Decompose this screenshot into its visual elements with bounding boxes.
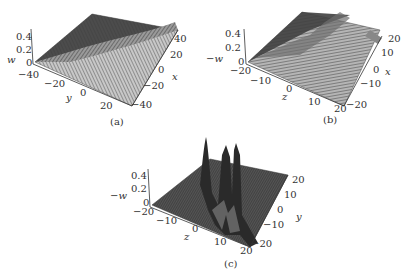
tick-y--10: −10 (263, 220, 284, 230)
tick-w-0.2: 0.2 (131, 184, 147, 194)
panel-c: 0.4 0.2 0 −w −20 −10 0 10 20 z 20 10 0 −… (100, 135, 310, 277)
axis-label-z: z (282, 92, 287, 102)
tick-z-20: 20 (334, 104, 347, 114)
tick-x--10: −10 (360, 79, 381, 89)
tick-y--40: −40 (18, 70, 39, 80)
tick-z-10: 10 (308, 97, 321, 107)
axis-label-y: y (66, 93, 72, 103)
tick-z--10: −10 (156, 216, 177, 226)
tick-w-0: 0 (26, 58, 32, 68)
tick-x-40: 40 (174, 34, 187, 44)
tick-x--20: −20 (346, 100, 367, 110)
panel-b: 0.4 0.2 0 −w −20 −10 0 10 20 z 20 10 0 −… (200, 0, 402, 140)
tick-x-20: 20 (170, 50, 183, 60)
axis-label-w: w (7, 55, 16, 65)
tick-y-0: 0 (80, 88, 86, 98)
caption-a: (a) (110, 117, 124, 127)
panel-a: 0.4 0.2 0 w −40 −20 0 20 y 40 20 0 −20 −… (0, 0, 200, 140)
tick-w-0.4: 0.4 (225, 29, 241, 39)
tick-y--20: −20 (251, 239, 272, 249)
axis-label-neg-w: −w (110, 191, 127, 201)
tick-z--20: −20 (230, 66, 251, 76)
tick-w-0.4: 0.4 (16, 32, 32, 42)
caption-c: (c) (224, 259, 237, 269)
tick-y--20: −20 (44, 79, 65, 89)
tick-x-20: 20 (388, 34, 401, 44)
tick-x-0: 0 (373, 65, 379, 75)
tick-x-0: 0 (158, 65, 164, 75)
axis-label-y: y (296, 212, 302, 222)
tick-w-0.2: 0.2 (225, 43, 241, 53)
axis-label-x: x (385, 67, 391, 77)
axis-label-x: x (172, 72, 178, 82)
tick-z-10: 10 (214, 237, 227, 247)
tick-y-20: 20 (292, 175, 305, 185)
tick-y-20: 20 (100, 101, 113, 111)
tick-z-0: 0 (192, 224, 198, 234)
tick-x--20: −20 (143, 81, 164, 91)
tick-y-0: 0 (277, 205, 283, 215)
axis-label-z: z (184, 232, 189, 242)
tick-x--40: −40 (131, 100, 152, 110)
tick-z--20: −20 (133, 207, 154, 217)
tick-x-10: 10 (381, 48, 394, 58)
tick-w-0.4: 0.4 (131, 171, 147, 181)
axis-label-neg-w: −w (206, 54, 223, 64)
tick-z--10: −10 (250, 76, 271, 86)
tick-w-0.2: 0.2 (16, 45, 32, 55)
caption-b: (b) (323, 115, 337, 125)
tick-y-10: 10 (284, 190, 297, 200)
